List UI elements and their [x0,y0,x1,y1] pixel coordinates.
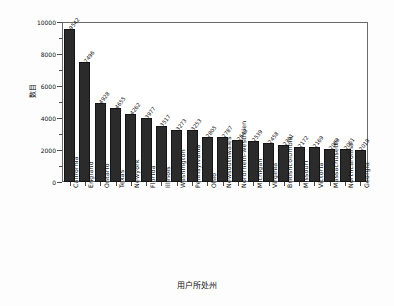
x-category-label: Newsouthwales [225,136,232,188]
x-category-label: Victoria [317,163,324,188]
x-category-label: Virginia [271,163,278,188]
x-tick-mark [299,182,300,186]
x-category-label: Florida [149,165,156,188]
x-tick-mark [116,182,117,186]
y-tick-label: 4000 [18,115,56,122]
x-category-label: Nordrhein-westfalen [240,121,247,189]
x-tick-mark [238,182,239,186]
x-tick-mark [146,182,147,186]
bar-value-label: 3273 [174,117,187,131]
y-tick-label: 10000 [18,19,56,26]
x-tick-mark [269,182,270,186]
x-tick-mark [207,182,208,186]
x-category-label: Georgia [363,162,370,188]
x-axis: CaliforniaEnglandOntarioTexasNewyorkFlor… [62,182,368,292]
x-tick-mark [223,182,224,186]
x-category-label: Massachusetts [332,139,339,188]
bar-value-label: 4655 [113,95,126,109]
x-tick-mark [345,182,346,186]
x-category-label: Newyork [133,159,140,188]
y-axis-title: 数目 [29,71,38,111]
x-category-label: Washington [179,149,186,188]
x-category-label: England [87,161,94,188]
x-tick-mark [192,182,193,186]
x-tick-mark [100,182,101,186]
x-tick-mark [253,182,254,186]
x-category-label: Texas [118,170,125,188]
x-tick-mark [177,182,178,186]
x-tick-mark [131,182,132,186]
y-tick-label: 2000 [18,147,56,154]
bar-chart: 0200040006000800010000 数目 95427496492846… [0,0,394,306]
x-tick-mark [85,182,86,186]
x-category-label: Missouri [302,161,309,188]
bar-value-label: 4262 [128,101,141,115]
x-category-label: Northcarolina [347,143,354,188]
x-tick-mark [70,182,71,186]
x-tick-mark [314,182,315,186]
x-tick-mark [360,182,361,186]
y-tick-label: 0 [18,179,56,186]
x-tick-mark [161,182,162,186]
x-category-label: California [72,156,79,188]
x-tick-mark [330,182,331,186]
x-category-label: Michigan [256,158,263,188]
x-category-label: Illinois [164,166,171,188]
x-category-label: Britishcolumbia [286,136,293,188]
x-category-label: Ontario [103,163,110,188]
x-category-label: Ohio [210,173,217,188]
y-tick-label: 8000 [18,51,56,58]
bar-value-label: 2458 [266,130,279,144]
x-axis-title: 用户所处州 [0,281,394,291]
bars-layer: 9542749649284655426239773517327332532805… [62,22,368,182]
bar-value-label: 9542 [67,17,80,31]
y-axis: 0200040006000800010000 [0,0,62,306]
x-category-label: Pennsylvania [194,144,201,188]
x-tick-mark [284,182,285,186]
